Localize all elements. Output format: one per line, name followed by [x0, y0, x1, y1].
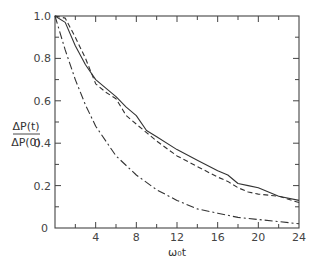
x-tick-label: 8: [133, 231, 140, 244]
y-tick-label: 0.8: [34, 52, 52, 65]
x-tick-label: 4: [92, 231, 99, 244]
y-tick-label: 1.0: [34, 10, 52, 23]
y-tick-label: 0.6: [34, 95, 52, 108]
x-axis-label: ω₀t: [168, 246, 187, 259]
y-axis-label-numerator: ΔP(t): [12, 120, 39, 133]
series-solid: [55, 16, 299, 200]
series-dash-dot: [55, 16, 299, 224]
x-tick-label: 12: [170, 231, 184, 244]
x-origin-label: 0: [41, 222, 48, 235]
y-tick-label: 0.2: [34, 180, 52, 193]
series-dashed: [55, 16, 299, 203]
x-tick-label: 16: [211, 231, 225, 244]
y-axis-label-denominator: ΔP(0): [11, 136, 41, 149]
x-tick-label: 20: [251, 231, 265, 244]
plot-frame: [55, 16, 299, 228]
line-chart: 481216202400.20.40.60.81.0ΔP(t)ΔP(0)ω₀t: [0, 0, 315, 264]
x-tick-label: 24: [292, 231, 306, 244]
